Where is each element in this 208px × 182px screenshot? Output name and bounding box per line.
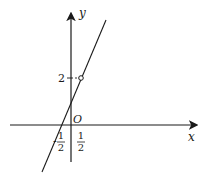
function-graph: y x O 2 - 1 2 1 2: [0, 0, 208, 182]
y-tick-label: 2: [58, 72, 65, 85]
half-numerator: 1: [78, 130, 84, 141]
origin-label: O: [73, 113, 82, 126]
function-line: [42, 20, 106, 172]
half-denominator: 2: [78, 142, 84, 153]
neg-half-denominator: 2: [58, 142, 64, 153]
x-axis-label: x: [188, 130, 195, 144]
y-axis-label: y: [78, 6, 86, 20]
neg-sign: -: [53, 135, 57, 148]
hollow-point: [79, 76, 84, 81]
neg-half-numerator: 1: [58, 130, 64, 141]
